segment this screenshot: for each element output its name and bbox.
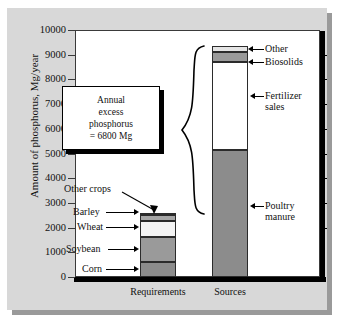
y-label-6000: 6000 — [6, 124, 66, 134]
leader-fertilizer — [255, 96, 264, 97]
callout-line-1: Annual — [97, 94, 125, 106]
label-fertilizer-sales: Fertilizer sales — [265, 90, 302, 112]
y-tick-right-4000 — [320, 178, 327, 179]
leader-wheat — [106, 227, 134, 228]
callout-line-2: excess — [99, 106, 124, 118]
leader-other-arrow — [248, 46, 253, 52]
label-fertilizer-line-2: sales — [265, 101, 302, 112]
label-other-crops: Other crops — [64, 183, 111, 194]
y-tick-right-7000 — [320, 104, 327, 105]
label-other: Other — [265, 43, 288, 54]
leader-fertilizer-arrow — [250, 93, 255, 99]
callout-line-4: = 6800 Mg — [90, 130, 132, 142]
callout-line-3: phosphorus — [89, 118, 133, 130]
leader-biosolids — [253, 62, 264, 63]
y-tick-right-9000 — [320, 55, 327, 56]
figure-root: Amount of phosphorus, Mg/year 10000 9000… — [0, 0, 342, 325]
label-biosolids: Biosolids — [265, 56, 303, 67]
y-tick-4000 — [68, 178, 75, 179]
y-label-4000: 4000 — [6, 173, 66, 183]
excess-callout: Annual excess phosphorus = 6800 Mg — [62, 86, 160, 150]
y-label-7000: 7000 — [6, 99, 66, 109]
y-label-3000: 3000 — [6, 198, 66, 208]
y-tick-right-6000 — [320, 129, 327, 130]
label-barley: Barley — [73, 206, 100, 217]
bar-sources[interactable] — [212, 46, 248, 277]
label-corn: Corn — [82, 263, 102, 274]
y-tick-8000 — [68, 79, 75, 80]
y-tick-0 — [68, 277, 75, 278]
leader-soybean-arrow — [134, 246, 139, 252]
category-label-sources: Sources — [195, 286, 265, 297]
y-tick-right-2000 — [320, 228, 327, 229]
y-tick-9000 — [68, 55, 75, 56]
y-tick-2000 — [68, 228, 75, 229]
segment-corn[interactable] — [140, 262, 176, 277]
segment-poultry-manure[interactable] — [212, 150, 248, 277]
y-tick-right-8000 — [320, 79, 327, 80]
y-tick-labels: 10000 9000 8000 7000 6000 5000 4000 3000… — [0, 0, 66, 325]
label-poultry-line-2: manure — [265, 211, 295, 222]
y-label-8000: 8000 — [6, 74, 66, 84]
leader-soybean — [108, 249, 134, 250]
leader-wheat-arrow — [134, 224, 139, 230]
y-tick-10000 — [68, 30, 75, 31]
y-label-5000: 5000 — [6, 149, 66, 159]
segment-biosolids[interactable] — [212, 52, 248, 62]
x-axis-rule — [74, 277, 326, 282]
label-fertilizer-line-1: Fertilizer — [265, 90, 302, 101]
segment-wheat[interactable] — [140, 221, 176, 237]
leader-corn — [106, 269, 134, 270]
y-label-2000: 2000 — [6, 223, 66, 233]
y-label-9000: 9000 — [6, 50, 66, 60]
label-wheat: Wheat — [77, 221, 103, 232]
segment-soybean[interactable] — [140, 237, 176, 262]
label-poultry-line-1: Poultry — [265, 200, 295, 211]
label-soybean: Soybean — [66, 243, 100, 254]
bar-requirements[interactable] — [140, 213, 176, 277]
leader-poultry-arrow — [250, 203, 255, 209]
leader-other — [253, 49, 264, 50]
brace-icon — [176, 44, 206, 216]
label-poultry-manure: Poultry manure — [265, 200, 295, 222]
leader-corn-arrow — [134, 266, 139, 272]
leader-biosolids-arrow — [248, 59, 253, 65]
y-label-10000: 10000 — [6, 25, 66, 35]
leader-barley-arrow — [134, 209, 139, 215]
y-tick-3000 — [68, 203, 75, 204]
y-tick-right-5000 — [320, 154, 327, 155]
segment-fertilizer-sales[interactable] — [212, 62, 248, 150]
leader-poultry — [255, 206, 264, 207]
category-label-requirements: Requirements — [118, 286, 198, 297]
y-label-1000: 1000 — [6, 247, 66, 257]
y-tick-right-3000 — [320, 203, 327, 204]
right-axis-rule — [320, 31, 325, 282]
leader-barley — [106, 212, 134, 213]
y-label-0: 0 — [6, 272, 66, 282]
